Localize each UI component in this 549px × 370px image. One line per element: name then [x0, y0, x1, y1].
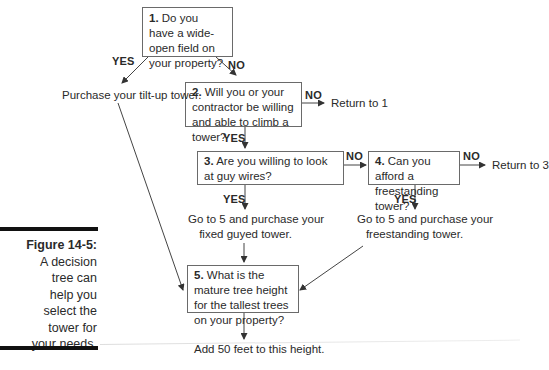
question-text: What is the mature tree height for the t… — [194, 269, 289, 326]
label-yes-q1: YES — [112, 55, 135, 67]
caption-line: A decision — [0, 254, 97, 271]
outcome-guyed-line1: Go to 5 and purchase your — [188, 212, 303, 227]
decision-box-4: 4. Can you afford a freestanding tower? — [368, 151, 460, 185]
question-text: Do you have a wide-open field on your pr… — [149, 12, 223, 69]
caption-top-rule — [0, 227, 98, 231]
step-number: 1. — [149, 12, 159, 24]
caption-bottom-rule — [0, 346, 98, 350]
figure-label: Figure 14-5: — [0, 237, 97, 254]
step-number: 4. — [375, 155, 385, 167]
outcome-guyed: Go to 5 and purchase your fixed guyed to… — [188, 212, 303, 242]
caption-line: help you — [0, 287, 97, 304]
decision-box-5: 5. What is the mature tree height for th… — [187, 265, 299, 313]
decision-box-1: 1. Do you have a wide-open field on your… — [142, 7, 233, 57]
step-number: 5. — [194, 269, 204, 281]
caption-line: your needs. — [0, 336, 97, 353]
step-number: 3. — [204, 155, 214, 167]
outcome-freestanding: Go to 5 and purchase your freestanding t… — [357, 212, 472, 242]
question-text: Are you willing to look at guy wires? — [204, 155, 327, 182]
label-yes-q2: YES — [223, 132, 246, 144]
label-no-q1: NO — [228, 59, 245, 71]
caption-line: select the — [0, 303, 97, 320]
label-no-q4: NO — [463, 150, 480, 162]
outcome-guyed-line2: fixed guyed tower. — [188, 227, 303, 242]
outcome-freestanding-line2: freestanding tower. — [357, 227, 472, 242]
outcome-freestanding-line1: Go to 5 and purchase your — [357, 212, 472, 227]
outcome-tilt-up: Purchase your tilt-up tower. — [62, 88, 201, 103]
label-no-q3: NO — [346, 150, 363, 162]
outcome-return-1: Return to 1 — [331, 96, 388, 111]
decision-box-3: 3. Are you willing to look at guy wires? — [197, 151, 344, 185]
outcome-return-3: Return to 3 — [492, 158, 549, 173]
caption-line: tree can — [0, 270, 97, 287]
label-no-q2: NO — [305, 89, 322, 101]
outcome-final: Add 50 feet to this height. — [194, 342, 324, 357]
label-yes-q4: YES — [394, 193, 417, 205]
figure-caption: Figure 14-5: A decision tree can help yo… — [0, 237, 97, 353]
decision-box-2: 2. Will you or your contractor be willin… — [185, 82, 302, 127]
caption-line: tower for — [0, 320, 97, 337]
label-yes-q3: YES — [223, 193, 246, 205]
